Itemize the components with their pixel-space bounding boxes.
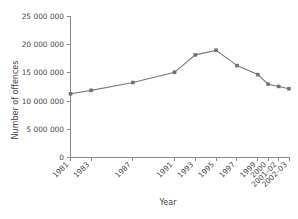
data-point-1991 <box>173 71 176 74</box>
x-axis: 1981198319871991199319951997199920002001… <box>51 158 290 208</box>
y-tick-label-5: 25 000 000 <box>22 12 65 21</box>
x-axis-ticks <box>71 158 290 162</box>
line-chart: 0 5 000 000 10 000 000 15 000 000 20 000… <box>0 0 298 219</box>
x-axis-tick-labels: 1981198319871991199319951997199920002001… <box>51 160 289 189</box>
x-tick-label-4: 1993 <box>176 160 196 180</box>
y-axis-ticks <box>67 17 71 158</box>
series-line-number-of-offences <box>71 50 290 93</box>
y-axis-tick-labels: 0 5 000 000 10 000 000 15 000 000 20 000… <box>22 12 65 162</box>
data-point-1995 <box>215 49 218 52</box>
x-tick-label-2: 1987 <box>113 160 133 180</box>
x-tick-label-1: 1983 <box>72 160 92 180</box>
x-tick-label-5: 1995 <box>196 160 216 180</box>
y-axis-title: Number of offences <box>11 61 20 140</box>
data-point-1987 <box>131 81 134 84</box>
y-tick-label-3: 15 000 000 <box>22 68 65 77</box>
y-tick-label-4: 20 000 000 <box>22 40 65 49</box>
chart-canvas: 0 5 000 000 10 000 000 15 000 000 20 000… <box>0 0 298 219</box>
y-tick-label-2: 10 000 000 <box>22 97 65 106</box>
data-point-1981 <box>69 92 72 95</box>
y-axis: 0 5 000 000 10 000 000 15 000 000 20 000… <box>11 12 71 162</box>
x-tick-label-0: 1981 <box>51 160 71 180</box>
data-point-2001–02 <box>277 85 280 88</box>
data-point-1997 <box>235 64 238 67</box>
x-tick-label-6: 1997 <box>217 160 237 180</box>
data-point-1993 <box>194 53 197 56</box>
data-point-1999 <box>256 73 259 76</box>
data-point-1983 <box>90 89 93 92</box>
data-series <box>69 49 291 96</box>
data-point-2000 <box>267 83 270 86</box>
y-tick-label-1: 5 000 000 <box>26 125 64 134</box>
data-point-2002–03 <box>287 87 290 90</box>
x-tick-label-3: 1991 <box>155 160 175 180</box>
x-axis-title: Year <box>159 198 178 207</box>
